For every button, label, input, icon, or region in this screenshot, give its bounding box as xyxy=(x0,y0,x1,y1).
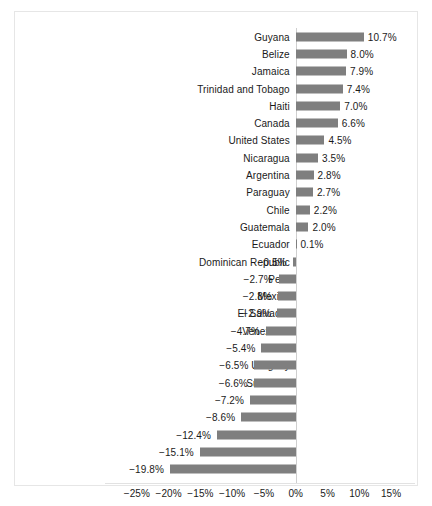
value-label: −5.4% xyxy=(226,343,255,354)
bar-row: Brazil−5.4% xyxy=(15,339,417,356)
value-label: −6.6% xyxy=(219,377,248,388)
chart-frame: Guyana10.7%Belize8.0%Jamaica7.9%Trinidad… xyxy=(14,11,418,486)
bar xyxy=(254,361,295,370)
value-label: −4.7% xyxy=(231,325,260,336)
value-label: 7.4% xyxy=(347,83,370,94)
bar xyxy=(296,67,346,76)
category-label: Paraguay xyxy=(246,187,290,198)
bar-row: Guatemala2.0% xyxy=(15,218,417,235)
bar xyxy=(266,326,296,335)
bar xyxy=(296,205,310,214)
value-label: −7.2% xyxy=(215,394,244,405)
bar-row: Colombia−8.6% xyxy=(15,409,417,426)
category-label: Ecuador xyxy=(252,239,290,250)
bar-row: Nicaragua3.5% xyxy=(15,149,417,166)
bar xyxy=(293,257,296,266)
bar-row: Panama−12.4% xyxy=(15,426,417,443)
category-label: Argentina xyxy=(246,170,290,181)
value-label: 0.1% xyxy=(300,239,323,250)
category-label: Chile xyxy=(266,204,289,215)
category-label: Nicaragua xyxy=(243,152,289,163)
bar-row: United States4.5% xyxy=(15,132,417,149)
bar xyxy=(296,222,309,231)
bar xyxy=(250,395,296,404)
value-label: 2.2% xyxy=(314,204,337,215)
bar-row: Paraguay2.7% xyxy=(15,184,417,201)
bar-row: El Salvador−2.9% xyxy=(15,305,417,322)
value-label: −15.1% xyxy=(159,446,194,457)
bar-row: Bolivia−7.2% xyxy=(15,391,417,408)
bar xyxy=(261,344,295,353)
x-tick-label: −10% xyxy=(219,488,245,499)
bar xyxy=(296,153,318,162)
value-label: 7.9% xyxy=(350,66,373,77)
category-label: Guyana xyxy=(254,31,290,42)
value-label: 3.5% xyxy=(322,152,345,163)
bar-row: Chile2.2% xyxy=(15,201,417,218)
value-label: 2.7% xyxy=(317,187,340,198)
value-label: 4.5% xyxy=(328,135,351,146)
value-label: −8.6% xyxy=(206,412,235,423)
plot-area: Guyana10.7%Belize8.0%Jamaica7.9%Trinidad… xyxy=(15,12,417,485)
value-label: −2.9% xyxy=(242,308,271,319)
bar-row: Venezuela−4.7% xyxy=(15,322,417,339)
value-label: 2.8% xyxy=(318,170,341,181)
x-tick-label: 5% xyxy=(320,488,335,499)
bar-row: Peru−2.7% xyxy=(15,270,417,287)
bar xyxy=(296,84,343,93)
bar-row: Jamaica7.9% xyxy=(15,63,417,80)
x-tick-label: −15% xyxy=(187,488,213,499)
category-label: Jamaica xyxy=(252,66,290,77)
bar xyxy=(170,465,296,474)
bar xyxy=(217,430,296,439)
value-label: −2.8% xyxy=(243,291,272,302)
bar-row: Ecuador0.1% xyxy=(15,236,417,253)
bar xyxy=(254,378,296,387)
bar-row: Dominican Republic−0.5% xyxy=(15,253,417,270)
category-label: Belize xyxy=(262,48,290,59)
x-tick-label: −20% xyxy=(156,488,182,499)
bar-row: Costa Rica−15.1% xyxy=(15,443,417,460)
value-label: −0.5% xyxy=(257,256,286,267)
value-label: 6.6% xyxy=(342,118,365,129)
bar xyxy=(296,136,325,145)
bar-row: Suriname−6.6% xyxy=(15,374,417,391)
category-label: Guatemala xyxy=(240,221,290,232)
bar-row: Trinidad and Tobago7.4% xyxy=(15,80,417,97)
x-tick-label: 15% xyxy=(381,488,401,499)
bar-row: Argentina2.8% xyxy=(15,166,417,183)
bar xyxy=(278,292,296,301)
bar xyxy=(296,240,297,249)
bar xyxy=(296,101,340,110)
figure: Guyana10.7%Belize8.0%Jamaica7.9%Trinidad… xyxy=(0,0,432,506)
x-tick-label: −25% xyxy=(124,488,150,499)
bar xyxy=(241,413,296,422)
bar xyxy=(296,171,314,180)
category-label: United States xyxy=(228,135,289,146)
bar xyxy=(279,274,296,283)
bar xyxy=(200,447,296,456)
category-label: Haiti xyxy=(269,100,290,111)
value-label: 2.0% xyxy=(312,221,335,232)
bar-row: Haiti7.0% xyxy=(15,97,417,114)
x-tick-label: 0% xyxy=(288,488,303,499)
bar xyxy=(296,49,347,58)
value-label: 10.7% xyxy=(368,31,397,42)
x-tick-label: 10% xyxy=(349,488,369,499)
value-label: −6.5% xyxy=(219,360,248,371)
category-label: Trinidad and Tobago xyxy=(197,83,290,94)
bar-row: Mexico−2.8% xyxy=(15,288,417,305)
value-label: −12.4% xyxy=(176,429,211,440)
value-label: 8.0% xyxy=(351,48,374,59)
x-tick-label: −5% xyxy=(254,488,275,499)
x-axis-line xyxy=(105,483,415,484)
value-label: −19.8% xyxy=(129,464,164,475)
bar xyxy=(296,119,338,128)
value-label: −2.7% xyxy=(243,273,272,284)
bar xyxy=(296,188,313,197)
bar-row: Belize8.0% xyxy=(15,45,417,62)
bar xyxy=(277,309,295,318)
bar-row: Guyana10.7% xyxy=(15,28,417,45)
category-label: Canada xyxy=(254,118,290,129)
bar-row: Canada6.6% xyxy=(15,115,417,132)
